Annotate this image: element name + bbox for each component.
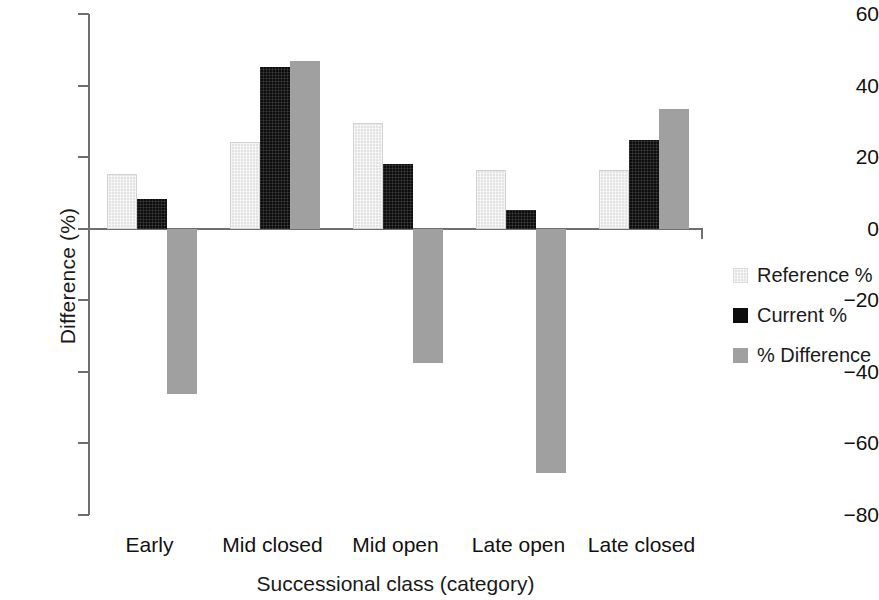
bar-mid-open-reference — [353, 123, 383, 229]
chart-legend: Reference %Current %% Difference — [733, 255, 879, 375]
bar-late-closed-difference — [659, 109, 689, 229]
bar-late-open-reference — [476, 170, 506, 228]
x-axis-tick-label: Late open — [472, 533, 565, 557]
y-axis-tick-label: −80 — [811, 503, 879, 527]
legend-item-reference: Reference % — [733, 255, 879, 295]
y-axis-tick-label: 0 — [811, 217, 879, 241]
legend-item-current: Current % — [733, 295, 879, 335]
x-axis-tick-label: Mid closed — [222, 533, 322, 557]
y-axis-tick-label: 40 — [811, 74, 879, 98]
bar-mid-closed-difference — [290, 61, 320, 229]
legend-item-label: Current % — [757, 304, 847, 327]
bar-late-closed-reference — [599, 170, 629, 228]
x-axis-tick-label: Early — [126, 533, 174, 557]
plot-area — [88, 14, 703, 515]
legend-swatch-icon — [733, 308, 748, 323]
bar-late-closed-current — [629, 140, 659, 228]
x-axis-tick-label: Mid open — [352, 533, 438, 557]
bar-mid-closed-current — [260, 67, 290, 229]
legend-item-label: % Difference — [757, 344, 871, 367]
bar-late-open-current — [506, 210, 536, 229]
legend-item-difference: % Difference — [733, 335, 879, 375]
legend-swatch-icon — [733, 348, 748, 363]
y-axis-tick-label: 60 — [811, 2, 879, 26]
x-axis-tick-label: Late closed — [588, 533, 695, 557]
y-axis-title: Difference (%) — [56, 126, 80, 426]
bar-mid-closed-reference — [230, 142, 260, 228]
y-axis-tick-label: 20 — [811, 145, 879, 169]
legend-item-label: Reference % — [757, 264, 873, 287]
legend-swatch-icon — [733, 268, 748, 283]
bar-mid-open-current — [383, 164, 413, 228]
bar-early-difference — [167, 229, 197, 395]
bar-early-reference — [107, 174, 137, 228]
x-axis-title: Successional class (category) — [88, 572, 703, 596]
bar-late-open-difference — [536, 229, 566, 473]
y-axis-tick-label: −60 — [811, 431, 879, 455]
bar-mid-open-difference — [413, 229, 443, 364]
bar-early-current — [137, 199, 167, 229]
bar-chart-figure: Difference (%) 6040200−20−40−60−80 Early… — [0, 0, 879, 600]
